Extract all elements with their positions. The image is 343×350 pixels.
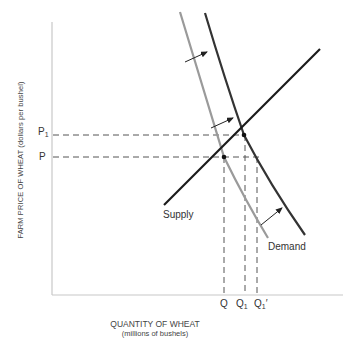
shift-arrow-icon bbox=[261, 208, 282, 225]
tick-subscript: 1 bbox=[244, 303, 248, 310]
shift-arrow-icon bbox=[185, 52, 207, 62]
quantity-tick-q1-prime: Q1′ bbox=[254, 298, 268, 310]
new-equilibrium-point bbox=[242, 133, 247, 138]
supply-demand-diagram bbox=[0, 0, 343, 350]
tick-subscript: 1 bbox=[45, 131, 49, 138]
y-axis-label: FARM PRICE OF WHEAT (dollars per bushel) bbox=[16, 81, 25, 238]
tick-letter: Q bbox=[236, 298, 244, 309]
original-equilibrium-point bbox=[222, 155, 227, 160]
tick-letter: P bbox=[39, 151, 46, 162]
x-axis-title: QUANTITY OF WHEAT bbox=[85, 319, 225, 329]
price-tick-p1: P1 bbox=[38, 126, 49, 138]
quantity-tick-q: Q bbox=[220, 298, 228, 309]
tick-letter: Q bbox=[220, 298, 228, 309]
tick-letter: Q bbox=[254, 298, 262, 309]
x-axis-units: (millions of bushels) bbox=[85, 329, 225, 339]
tick-letter: P bbox=[38, 126, 45, 137]
tick-prime: ′ bbox=[266, 298, 268, 309]
supply-label: Supply bbox=[163, 209, 194, 220]
price-tick-p: P bbox=[39, 151, 46, 162]
supply-curve bbox=[164, 49, 320, 205]
x-axis-label: QUANTITY OF WHEAT (millions of bushels) bbox=[85, 319, 225, 339]
y-axis-title: FARM PRICE OF WHEAT bbox=[16, 150, 25, 239]
quantity-tick-q1: Q1 bbox=[236, 298, 248, 310]
original-demand-curve bbox=[180, 12, 268, 238]
y-axis-units: (dollars per bushel) bbox=[16, 81, 25, 147]
demand-label: Demand bbox=[268, 241, 306, 252]
